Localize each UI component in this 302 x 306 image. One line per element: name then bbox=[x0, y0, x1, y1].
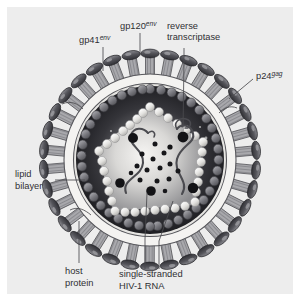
figure-panel: gp120env gp41env reversetranscriptase p2… bbox=[7, 7, 293, 294]
virion bbox=[39, 49, 262, 271]
hiv-virion-diagram: gp120env gp41env reversetranscriptase p2… bbox=[7, 7, 293, 294]
